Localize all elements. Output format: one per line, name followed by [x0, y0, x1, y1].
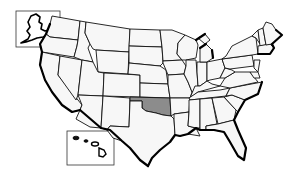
state-north-dakota — [129, 29, 162, 47]
state-arizona — [76, 95, 103, 128]
hawaii-island-kauai — [73, 136, 79, 140]
state-wyoming — [96, 50, 129, 74]
state-new-york — [222, 36, 258, 59]
state-mississippi — [188, 99, 200, 128]
state-kansas — [140, 83, 170, 98]
hawaii-island-maui — [92, 142, 99, 146]
state-washington — [46, 16, 80, 40]
state-south-dakota — [129, 46, 163, 66]
state-new-jersey — [254, 60, 260, 72]
state-florida — [206, 120, 246, 160]
state-montana — [85, 22, 130, 52]
hawaii-inset — [67, 131, 114, 165]
state-new-mexico — [101, 96, 130, 130]
hawaii-island-oahu — [84, 140, 88, 143]
state-colorado — [103, 73, 140, 97]
us-map — [0, 0, 303, 173]
us-map-svg — [0, 0, 303, 173]
